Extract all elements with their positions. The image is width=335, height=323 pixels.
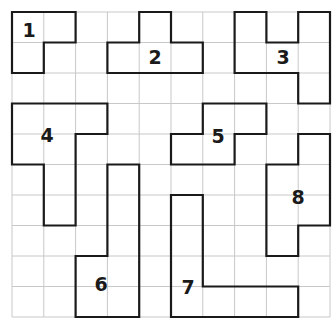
piece-label-2: 2 <box>148 46 161 68</box>
piece-label-7: 7 <box>181 276 194 298</box>
piece-label-6: 6 <box>94 273 107 295</box>
piece-label-4: 4 <box>40 124 53 146</box>
puzzle-diagram: 12345678 <box>0 0 335 323</box>
piece-label-1: 1 <box>22 19 35 41</box>
puzzle-grid: 12345678 <box>0 0 335 323</box>
piece-label-5: 5 <box>211 125 224 147</box>
piece-label-8: 8 <box>291 186 304 208</box>
piece-label-3: 3 <box>276 46 289 68</box>
